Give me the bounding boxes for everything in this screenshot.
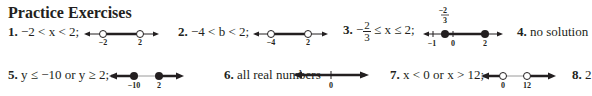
exercise-8: 8. 2 bbox=[572, 67, 592, 83]
svg-text:2: 2 bbox=[138, 38, 142, 47]
exercise-answer: no solution bbox=[530, 24, 588, 39]
exercise-number: 2. bbox=[178, 24, 188, 39]
exercise-answer: 2 bbox=[585, 67, 592, 82]
svg-text:12: 12 bbox=[523, 81, 531, 90]
svg-text:0: 0 bbox=[501, 81, 505, 90]
number-line-7: 0 12 bbox=[481, 68, 556, 90]
exercise-number: 7. bbox=[390, 67, 400, 82]
exercise-answer: −4 < b < 2; bbox=[191, 24, 249, 39]
exercise-1: 1. −2 < x < 2; bbox=[8, 24, 79, 40]
section-title: Practice Exercises bbox=[8, 4, 132, 22]
number-line-6: 0 bbox=[293, 68, 369, 90]
exercise-answer: −2 < x < 2; bbox=[21, 24, 79, 39]
exercise-answer: ≤ x ≤ 2; bbox=[374, 22, 415, 37]
fraction: 23 bbox=[363, 20, 371, 43]
exercise-number: 3. bbox=[343, 22, 353, 37]
exercise-number: 8. bbox=[572, 67, 582, 82]
exercise-number: 5. bbox=[8, 67, 18, 82]
svg-text:−1: −1 bbox=[428, 39, 437, 48]
exercise-5: 5. y ≤ −10 or y ≥ 2; bbox=[8, 67, 109, 83]
svg-text:−10: −10 bbox=[128, 81, 141, 90]
exercise-number: 4. bbox=[517, 24, 527, 39]
svg-text:2: 2 bbox=[157, 81, 161, 90]
exercise-4: 4. no solution bbox=[517, 24, 588, 40]
exercise-number: 6. bbox=[224, 67, 234, 82]
svg-text:2: 2 bbox=[483, 39, 487, 48]
svg-text:3: 3 bbox=[443, 16, 447, 25]
exercise-answer: y ≤ −10 or y ≥ 2; bbox=[21, 67, 109, 82]
exercise-number: 1. bbox=[8, 24, 18, 39]
svg-text:2: 2 bbox=[306, 38, 310, 47]
number-line-2: −4 2 bbox=[253, 26, 328, 46]
number-line-3: − 2 3 −1 0 2 bbox=[423, 6, 503, 48]
svg-text:2: 2 bbox=[443, 6, 447, 15]
svg-text:−4: −4 bbox=[267, 38, 276, 47]
svg-text:−2: −2 bbox=[99, 38, 108, 47]
svg-text:0: 0 bbox=[329, 81, 333, 90]
exercise-3: 3. −23 ≤ x ≤ 2; bbox=[343, 20, 415, 43]
exercise-2: 2. −4 < b < 2; bbox=[178, 24, 249, 40]
exercise-answer: x < 0 or x > 12; bbox=[403, 67, 484, 82]
number-line-5: −10 2 bbox=[109, 68, 184, 90]
number-line-1: −2 2 bbox=[84, 26, 159, 46]
exercise-7: 7. x < 0 or x > 12; bbox=[390, 67, 484, 83]
svg-text:0: 0 bbox=[451, 39, 455, 48]
